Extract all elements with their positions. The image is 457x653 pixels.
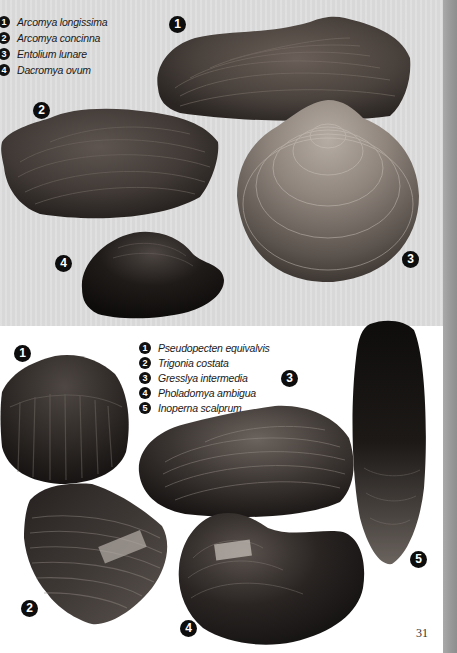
species-name: Arcomya concinna — [17, 32, 100, 44]
legend-number-badge: 4 — [139, 387, 151, 399]
species-name: Dacromya ovum — [17, 64, 91, 76]
fossil-pseudopecten-equivalvis — [0, 352, 132, 487]
legend-item: 2 Trigonia costata — [139, 355, 270, 370]
species-name: Inoperna scalprum — [158, 402, 242, 414]
legend-number-badge: 3 — [0, 48, 10, 60]
legend-item: 1 Pseudopecten equivalvis — [139, 340, 270, 355]
fossil-pholadomya-ambigua — [173, 508, 369, 648]
fossil-trigonia-costata — [22, 478, 172, 628]
specimen-badge-5: 5 — [410, 551, 427, 568]
species-name: Entolium lunare — [17, 48, 87, 60]
bottom-plate-legend: 1 Pseudopecten equivalvis 2 Trigonia cos… — [139, 340, 270, 416]
specimen-badge-3: 3 — [402, 251, 419, 268]
legend-number-badge: 3 — [139, 372, 151, 384]
top-plate-legend: 1 Arcomya longissima 2 Arcomya concinna … — [0, 14, 107, 78]
legend-item: 3 Gresslya intermedia — [139, 370, 270, 385]
legend-item: 5 Inoperna scalprum — [139, 401, 270, 416]
legend-number-badge: 2 — [0, 32, 10, 44]
specimen-badge-4: 4 — [180, 620, 197, 637]
legend-item: 3 Entolium lunare — [0, 46, 107, 62]
legend-item: 1 Arcomya longissima — [0, 14, 107, 30]
species-name: Gresslya intermedia — [158, 372, 248, 384]
species-name: Pholadomya ambigua — [158, 387, 256, 399]
legend-number-badge: 2 — [139, 357, 151, 369]
legend-number-badge: 1 — [139, 342, 151, 354]
species-name: Trigonia costata — [158, 357, 229, 369]
fossil-dacromya-ovum — [78, 228, 226, 320]
species-name: Pseudopecten equivalvis — [158, 342, 270, 354]
fossil-arcomya-concinna — [0, 102, 222, 222]
legend-number-badge: 1 — [0, 16, 10, 28]
legend-item: 2 Arcomya concinna — [0, 30, 107, 46]
page-number: 31 — [416, 626, 428, 641]
specimen-badge-2: 2 — [33, 102, 50, 119]
legend-number-badge: 4 — [0, 64, 10, 76]
specimen-badge-2: 2 — [21, 600, 38, 617]
specimen-badge-1: 1 — [169, 16, 186, 33]
fossil-entolium-lunare — [233, 96, 423, 286]
page-edge-strip — [443, 0, 457, 653]
book-page: 1 2 3 4 1 Arcomya longissima 2 Arcomya c… — [0, 0, 457, 653]
legend-item: 4 Pholadomya ambigua — [139, 386, 270, 401]
species-name: Arcomya longissima — [17, 16, 107, 28]
specimen-badge-3: 3 — [281, 370, 298, 387]
specimen-badge-4: 4 — [55, 255, 72, 272]
legend-number-badge: 5 — [139, 402, 151, 414]
specimen-badge-1: 1 — [14, 345, 31, 362]
legend-item: 4 Dacromya ovum — [0, 62, 107, 78]
